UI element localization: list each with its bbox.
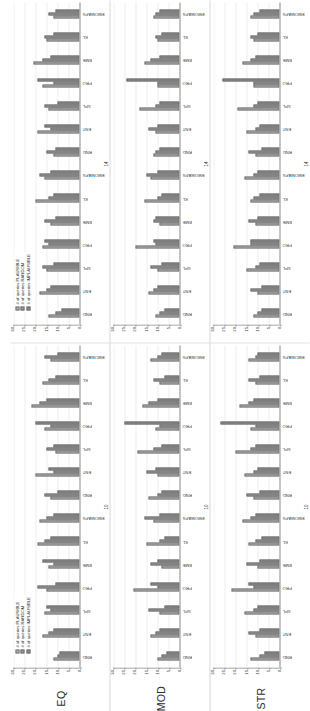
- bar-group: [14, 552, 80, 575]
- legend-label: # of queries RANDOM: [21, 605, 25, 647]
- x-tick-cell: PRO: [81, 71, 103, 94]
- x-tick-label: PRO: [182, 242, 191, 247]
- bar: [47, 447, 80, 450]
- plot-area: [214, 345, 281, 667]
- x-axis-title: 10: [203, 345, 210, 668]
- bar: [149, 291, 180, 294]
- x-tick-cell: SPL: [181, 94, 203, 117]
- bar: [158, 657, 180, 660]
- bar: [242, 519, 279, 522]
- x-tick-label: BME: [282, 400, 291, 405]
- x-tick-label: PRO: [282, 80, 291, 85]
- bar-group: [114, 94, 180, 117]
- gridline: [280, 2, 281, 324]
- bar: [58, 490, 80, 493]
- bar-group: [214, 598, 280, 621]
- x-tick-label: BME: [182, 57, 191, 62]
- bar-group: [214, 483, 280, 506]
- bar-group: [14, 437, 80, 460]
- y-tick-label: 10: [256, 670, 260, 675]
- x-tick-label: BME: [282, 57, 291, 62]
- bar: [155, 631, 179, 634]
- bar: [260, 262, 280, 265]
- bar-group: [214, 2, 280, 25]
- bar: [158, 398, 180, 401]
- bar: [164, 308, 179, 311]
- bar: [260, 654, 280, 657]
- bar: [155, 467, 179, 470]
- bar: [38, 78, 80, 81]
- x-tick-cell: EMOMAPS: [281, 506, 300, 529]
- bar: [258, 605, 280, 608]
- x-tick-label: KL: [282, 539, 287, 544]
- bar: [260, 124, 280, 127]
- bar: [55, 582, 79, 585]
- y-tick-label: 20: [234, 670, 238, 675]
- y-tick-label: 15: [45, 327, 49, 332]
- bar: [47, 288, 80, 291]
- bar: [160, 424, 180, 427]
- bar: [253, 608, 279, 611]
- x-tick-label: RND: [182, 311, 191, 316]
- x-tick-cell: SPL: [281, 437, 300, 460]
- plot-wrap: 051015202530: [214, 2, 281, 340]
- x-tick-label: PRO: [282, 242, 291, 247]
- bar: [255, 55, 279, 58]
- y-tick-label: 0: [178, 327, 182, 329]
- x-tick-cell: KL: [281, 368, 300, 391]
- bar: [251, 427, 280, 430]
- x-tick-label: RND: [82, 654, 91, 659]
- bar: [255, 513, 279, 516]
- bar: [260, 490, 280, 493]
- y-axis: 051015202530: [214, 667, 281, 683]
- bar: [47, 268, 80, 271]
- x-tick-label: SPL: [282, 446, 290, 451]
- bar: [53, 513, 79, 516]
- bar: [36, 473, 80, 476]
- y-tick-label: 0: [178, 670, 182, 672]
- bar: [158, 473, 180, 476]
- x-tick-cell: RND: [281, 645, 300, 668]
- bar: [44, 355, 79, 358]
- y-tick-label: 15: [145, 327, 149, 332]
- y-tick-label: 0: [278, 670, 282, 672]
- x-tick-label: SPL: [82, 265, 90, 270]
- bar: [53, 444, 79, 447]
- x-tick-cell: PRO: [281, 233, 300, 256]
- bar: [160, 101, 180, 104]
- bar: [42, 245, 79, 248]
- x-tick-cell: ENT: [81, 622, 103, 645]
- bar: [151, 58, 180, 61]
- bar-group: [114, 460, 180, 483]
- bar: [55, 9, 79, 12]
- bar-group: [114, 301, 180, 324]
- bar: [162, 654, 180, 657]
- row-title: EQ: [11, 685, 110, 711]
- y-tick-label: 10: [156, 327, 160, 332]
- x-tick-cell: KL: [81, 25, 103, 48]
- bar: [155, 104, 179, 107]
- bar: [233, 245, 279, 248]
- x-tick-label: PRO: [82, 242, 91, 247]
- bar: [153, 519, 179, 522]
- x-tick-cell: ENT: [281, 460, 300, 483]
- bar: [62, 308, 80, 311]
- bar: [158, 38, 180, 41]
- bar: [149, 127, 180, 130]
- x-tick-label: ENT: [182, 288, 191, 293]
- bar: [51, 536, 80, 539]
- bar-group: [214, 437, 280, 460]
- gridline: [80, 345, 81, 667]
- x-tick-label: EMOMAPS: [182, 354, 204, 359]
- bar: [222, 78, 279, 81]
- bar: [53, 81, 79, 84]
- bar: [255, 153, 279, 156]
- bar: [253, 398, 279, 401]
- bar-group: [114, 278, 180, 301]
- legend-item: # of queries IMPLAUSIBLE: [26, 596, 30, 653]
- bar: [51, 127, 80, 130]
- x-tick-label: KL: [182, 34, 187, 39]
- bar: [153, 15, 179, 18]
- x-tick-label: KL: [282, 34, 287, 39]
- x-tick-label: SPL: [182, 265, 190, 270]
